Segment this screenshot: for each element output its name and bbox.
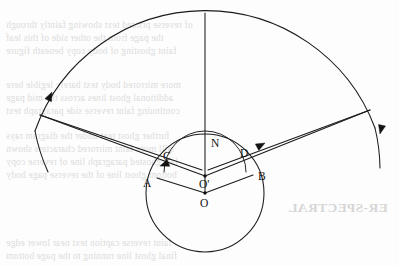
label-point-b: B — [258, 170, 266, 182]
right-arc-arrow-icon — [376, 124, 385, 134]
label-normal: N — [211, 137, 220, 149]
figure-container: of reverse printed text showing faintly … — [0, 0, 399, 266]
optics-diagram: N C D A B O' O — [0, 0, 399, 266]
outer-arc-left-tail — [35, 131, 48, 172]
label-point-d: D — [240, 147, 248, 159]
vertex-dot-o — [203, 191, 206, 194]
label-center-outer: O — [200, 197, 208, 209]
segment-b-to-o — [205, 175, 253, 193]
label-center-inner: O' — [199, 178, 209, 190]
label-point-c: C — [163, 150, 171, 162]
label-point-a: A — [143, 177, 152, 189]
segment-a-to-o — [157, 178, 205, 193]
ray-right-to-d — [208, 110, 370, 170]
incident-ray-left-to-a — [40, 115, 205, 176]
ray-left-to-c — [40, 115, 202, 170]
ray-right-to-b — [205, 110, 370, 176]
outer-arc-right-tail — [375, 128, 380, 168]
